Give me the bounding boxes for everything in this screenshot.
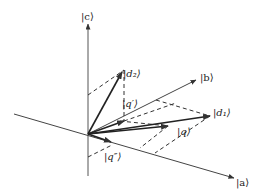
a-axis: [14, 114, 234, 178]
a-axis-label: |a⟩: [236, 177, 249, 189]
c-axis-label: |c⟩: [81, 11, 94, 23]
q-label: |q⟩: [177, 126, 191, 138]
q-prime-label: |q′⟩: [122, 98, 138, 110]
d2-label: |d₂⟩: [123, 68, 141, 80]
projection-lines: [88, 70, 210, 157]
b-axis-label: |b⟩: [200, 72, 214, 84]
q-double-prime-label: |q″⟩: [104, 151, 122, 163]
vector-space-diagram: |c⟩ |b⟩ |a⟩ |d₂⟩ |q′⟩ |d₁⟩ |q⟩ |q″⟩: [0, 0, 262, 191]
vector-q-double-prime: [88, 134, 111, 142]
d1-label: |d₁⟩: [213, 107, 231, 119]
vector-d2: [88, 72, 122, 134]
